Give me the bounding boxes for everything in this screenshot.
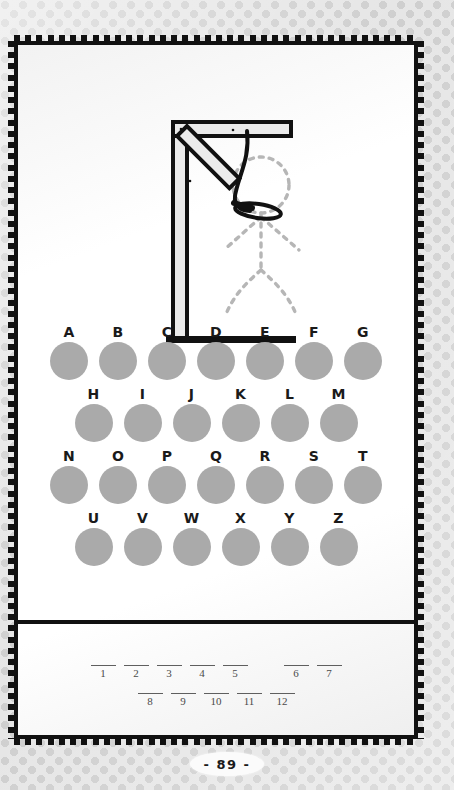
letter-cell-l[interactable]: L xyxy=(271,387,309,442)
letter-label-b: B xyxy=(113,325,124,340)
letter-circle-l[interactable] xyxy=(271,404,309,442)
letter-cell-p[interactable]: P xyxy=(148,449,186,504)
letter-circle-p[interactable] xyxy=(148,466,186,504)
letter-circle-j[interactable] xyxy=(173,404,211,442)
letter-cell-u[interactable]: U xyxy=(75,511,113,566)
letter-circle-o[interactable] xyxy=(99,466,137,504)
letter-circle-c[interactable] xyxy=(148,342,186,380)
letter-cell-b[interactable]: B xyxy=(99,325,137,380)
letter-label-e: E xyxy=(260,325,270,340)
letter-circle-d[interactable] xyxy=(197,342,235,380)
letter-cell-f[interactable]: F xyxy=(295,325,333,380)
letter-circle-h[interactable] xyxy=(75,404,113,442)
letter-cell-n[interactable]: N xyxy=(50,449,88,504)
answer-blank-number: 3 xyxy=(166,667,172,680)
letter-label-z: Z xyxy=(333,511,343,526)
letter-circle-a[interactable] xyxy=(50,342,88,380)
gallows-nail-icon xyxy=(180,128,183,131)
letter-circle-q[interactable] xyxy=(197,466,235,504)
answer-blank-line xyxy=(157,665,182,666)
letter-cell-j[interactable]: J xyxy=(173,387,211,442)
answer-blank-line xyxy=(317,665,342,666)
gallows-nail-icon xyxy=(232,129,235,132)
letter-label-s: S xyxy=(309,449,319,464)
letter-label-r: R xyxy=(259,449,270,464)
letter-label-p: P xyxy=(162,449,173,464)
letter-circle-n[interactable] xyxy=(50,466,88,504)
letter-circle-t[interactable] xyxy=(344,466,382,504)
letter-cell-q[interactable]: Q xyxy=(197,449,235,504)
letter-circle-z[interactable] xyxy=(320,528,358,566)
answer-blank-1[interactable]: 1 xyxy=(90,665,117,680)
answer-blank-8[interactable]: 8 xyxy=(137,693,164,708)
letter-cell-c[interactable]: C xyxy=(148,325,186,380)
figure-left-arm-icon xyxy=(224,217,261,250)
answer-blank-11[interactable]: 11 xyxy=(236,693,263,708)
letter-circle-i[interactable] xyxy=(124,404,162,442)
answer-blank-number: 7 xyxy=(326,667,332,680)
letter-circle-b[interactable] xyxy=(99,342,137,380)
letter-label-q: Q xyxy=(210,449,222,464)
answer-blank-10[interactable]: 10 xyxy=(203,693,230,708)
letter-cell-h[interactable]: H xyxy=(75,387,113,442)
letter-cell-y[interactable]: Y xyxy=(271,511,309,566)
answer-blank-line xyxy=(284,665,309,666)
answer-blank-line xyxy=(190,665,215,666)
letter-cell-k[interactable]: K xyxy=(222,387,260,442)
letter-circle-v[interactable] xyxy=(124,528,162,566)
answer-blank-12[interactable]: 12 xyxy=(269,693,296,708)
letter-circle-y[interactable] xyxy=(271,528,309,566)
letter-cell-e[interactable]: E xyxy=(246,325,284,380)
answer-blank-line xyxy=(237,693,262,694)
letter-cell-w[interactable]: W xyxy=(173,511,211,566)
letter-label-f: F xyxy=(309,325,319,340)
alphabet-row-2: H I J K L xyxy=(18,387,414,442)
answer-blank-6[interactable]: 6 xyxy=(283,665,310,680)
answer-blank-7[interactable]: 7 xyxy=(316,665,343,680)
letter-cell-a[interactable]: A xyxy=(50,325,88,380)
letter-label-g: G xyxy=(357,325,369,340)
answer-blank-number: 11 xyxy=(244,695,255,708)
answer-blank-4[interactable]: 4 xyxy=(189,665,216,680)
letter-cell-d[interactable]: D xyxy=(197,325,235,380)
letter-circle-r[interactable] xyxy=(246,466,284,504)
letter-circle-x[interactable] xyxy=(222,528,260,566)
letter-label-o: O xyxy=(112,449,124,464)
answer-row-1: 1 2 3 4 5 xyxy=(18,665,414,680)
letter-cell-t[interactable]: T xyxy=(344,449,382,504)
letter-label-t: T xyxy=(358,449,368,464)
letter-label-u: U xyxy=(88,511,100,526)
answer-blank-line xyxy=(171,693,196,694)
letter-label-h: H xyxy=(87,387,99,402)
letter-cell-g[interactable]: G xyxy=(344,325,382,380)
letter-circle-w[interactable] xyxy=(173,528,211,566)
letter-cell-o[interactable]: O xyxy=(99,449,137,504)
alphabet-row-3: N O P Q R xyxy=(18,449,414,504)
letter-cell-x[interactable]: X xyxy=(222,511,260,566)
letter-circle-s[interactable] xyxy=(295,466,333,504)
letter-cell-v[interactable]: V xyxy=(124,511,162,566)
answer-blank-number: 6 xyxy=(293,667,299,680)
letter-cell-i[interactable]: I xyxy=(124,387,162,442)
letter-label-w: W xyxy=(184,511,200,526)
letter-circle-m[interactable] xyxy=(320,404,358,442)
letter-circle-e[interactable] xyxy=(246,342,284,380)
answer-blank-number: 10 xyxy=(211,695,222,708)
answer-blank-3[interactable]: 3 xyxy=(156,665,183,680)
letter-circle-k[interactable] xyxy=(222,404,260,442)
letter-circle-f[interactable] xyxy=(295,342,333,380)
frame-teeth-top xyxy=(14,35,418,41)
page-number-badge: - 89 - xyxy=(190,752,264,776)
letter-cell-r[interactable]: R xyxy=(246,449,284,504)
answer-blank-number: 9 xyxy=(180,695,186,708)
letter-circle-g[interactable] xyxy=(344,342,382,380)
letter-circle-u[interactable] xyxy=(75,528,113,566)
answer-blank-5[interactable]: 5 xyxy=(222,665,249,680)
letter-cell-m[interactable]: M xyxy=(320,387,358,442)
answer-blank-2[interactable]: 2 xyxy=(123,665,150,680)
letter-cell-z[interactable]: Z xyxy=(320,511,358,566)
letter-cell-s[interactable]: S xyxy=(295,449,333,504)
answer-blank-line xyxy=(91,665,116,666)
answer-blank-9[interactable]: 9 xyxy=(170,693,197,708)
answer-blank-line xyxy=(124,665,149,666)
